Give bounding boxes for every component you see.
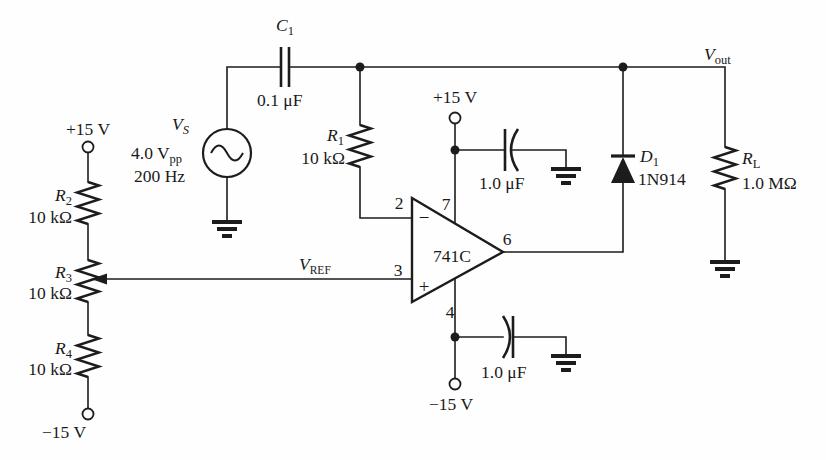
- label-r4-value: 10 kΩ: [28, 359, 72, 379]
- schematic-canvas: C1 0.1 μF VS 4.0 Vpp 200 Hz R1 10 kΩ +15…: [0, 0, 826, 460]
- wire-r1-to-pin2: [360, 167, 412, 218]
- label-vout: Vout: [704, 44, 731, 67]
- label-vs: VS: [172, 114, 190, 137]
- symbols-group: [77, 47, 736, 377]
- label-vs-amplitude: 4.0 Vpp: [131, 143, 182, 166]
- opamp-minus-sign: −: [419, 207, 430, 228]
- label-pin2: 2: [395, 193, 404, 213]
- label-pin7: 7: [442, 194, 451, 214]
- diode-d1-triangle: [611, 157, 635, 183]
- terminal-pos15-mid: [450, 113, 461, 124]
- junction-dot-pin7: [451, 146, 460, 155]
- label-r2: R2: [54, 185, 72, 208]
- resistor-rl-symbol: [714, 147, 736, 189]
- label-pin3: 3: [394, 260, 403, 280]
- label-r3: R3: [54, 262, 72, 285]
- grounds-group: [212, 169, 740, 370]
- label-r1: R1: [326, 125, 344, 148]
- resistor-r4-symbol: [77, 335, 99, 377]
- resistor-r2-symbol: [77, 182, 99, 224]
- junction-dot-c1-r1: [356, 63, 365, 72]
- label-vs-frequency: 200 Hz: [134, 166, 185, 186]
- label-cap-top-value: 1.0 μF: [479, 173, 525, 193]
- label-pin4: 4: [446, 302, 455, 322]
- label-d1-value: 1N914: [638, 169, 686, 189]
- resistor-r1-symbol: [349, 125, 371, 167]
- label-pos15-left: +15 V: [66, 119, 110, 139]
- label-c1: C1: [276, 15, 294, 38]
- ground-icon-cap-top: [551, 169, 581, 183]
- label-cap-bottom-value: 1.0 μF: [481, 362, 527, 382]
- label-r1-value: 10 kΩ: [301, 148, 345, 168]
- ground-icon-source: [212, 222, 242, 236]
- label-c1-value: 0.1 μF: [257, 90, 303, 110]
- junction-dot-rail-d1: [619, 63, 628, 72]
- circuit-schematic-figure: C1 0.1 μF VS 4.0 Vpp 200 Hz R1 10 kΩ +15…: [0, 0, 826, 460]
- label-neg15-left: −15 V: [42, 422, 86, 442]
- label-opamp-part: 741C: [433, 246, 471, 266]
- label-r3-value: 10 kΩ: [28, 283, 72, 303]
- opamp-plus-sign: +: [419, 276, 430, 297]
- label-neg15-mid: −15 V: [429, 394, 473, 414]
- label-rl: RL: [741, 148, 760, 171]
- resistor-r3-symbol: [77, 260, 99, 302]
- terminal-neg15-left: [83, 409, 94, 420]
- terminal-pos15-left: [83, 142, 94, 153]
- label-r4: R4: [54, 338, 73, 361]
- capacitor-bottom-plate-curved: [503, 316, 510, 358]
- ground-icon-rl: [710, 262, 740, 276]
- junction-dot-pin4: [451, 333, 460, 342]
- wires-group: [88, 67, 725, 408]
- label-d1: D1: [639, 146, 659, 169]
- wire-capbottom-to-ground: [513, 337, 566, 355]
- label-rl-value: 1.0 MΩ: [742, 173, 797, 193]
- label-r2-value: 10 kΩ: [28, 207, 72, 227]
- label-pos15-mid: +15 V: [433, 87, 477, 107]
- wire-captop-to-ground: [511, 150, 566, 168]
- ground-icon-cap-bottom: [551, 356, 581, 370]
- label-pin6: 6: [503, 229, 512, 249]
- wire-output-to-diode: [503, 183, 623, 252]
- terminal-neg15-mid: [450, 379, 461, 390]
- label-vref: VREF: [299, 254, 331, 276]
